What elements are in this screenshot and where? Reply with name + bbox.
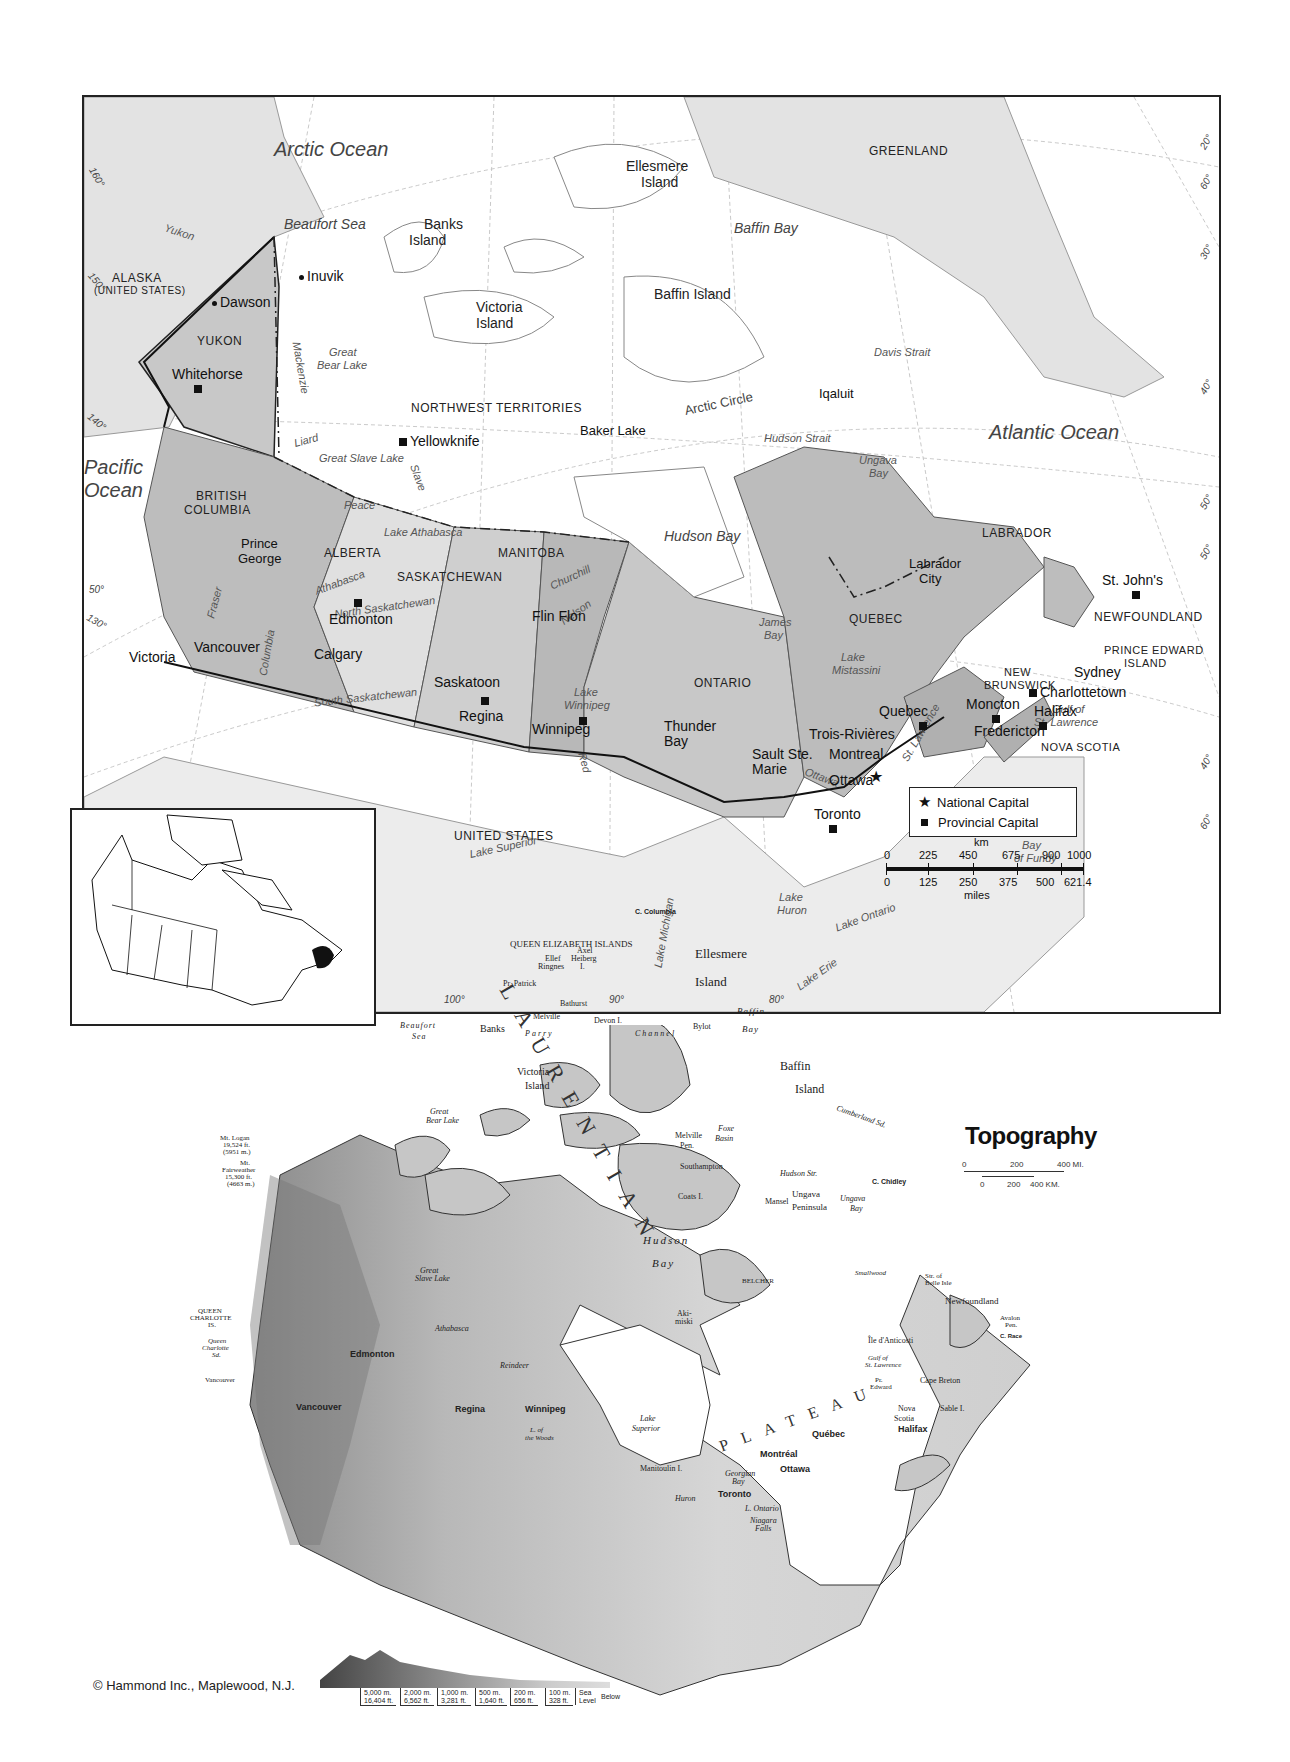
topo-label: Newfoundland (945, 1297, 999, 1306)
nova-scotia-label: NOVA SCOTIA (1041, 742, 1120, 754)
pei-label-1: PRINCE EDWARD (1104, 645, 1204, 657)
star-icon: ★ (918, 793, 931, 811)
topo-label: Island (695, 975, 727, 989)
topo-label: Falls (755, 1525, 771, 1533)
city-labrador-city-2: City (919, 572, 941, 586)
topo-label: Baffin (780, 1060, 810, 1073)
city-dot-icon (212, 301, 217, 306)
elevation-profile-graphic (320, 1650, 610, 1690)
city-yellowknife: Yellowknife (399, 434, 480, 449)
elevation-band-500: 500 m.1,640 ft. (475, 1688, 507, 1706)
topo-label: Channel (635, 1030, 676, 1038)
topo-city-label: Montréal (760, 1450, 798, 1459)
topo-label: Huron (675, 1495, 696, 1503)
topo-city-label: Québec (812, 1430, 845, 1439)
peace-river-label: Peace (344, 500, 375, 512)
topo-label: Melville (675, 1132, 702, 1140)
great-slave-lake-label: Great Slave Lake (319, 453, 404, 465)
lake-huron-label-2: Huron (777, 905, 807, 917)
city-prince-george-2: George (238, 552, 281, 566)
locator-inset-map (70, 808, 376, 1026)
topo-label: Bay (850, 1205, 862, 1213)
provincial-capital-icon (1132, 591, 1140, 599)
city-moncton: Moncton (966, 697, 1020, 712)
topo-label: Belle Isle (925, 1280, 952, 1287)
davis-strait-label: Davis Strait (874, 347, 930, 359)
topo-label: Bay (732, 1478, 744, 1486)
topo-label: Smallwood (855, 1270, 886, 1277)
city-baker-lake: Baker Lake (580, 424, 646, 438)
graticule-label: 90° (609, 995, 624, 1006)
topo-label: Sea (412, 1033, 427, 1041)
square-icon (921, 819, 928, 826)
graticule-label: 80° (769, 995, 784, 1006)
topo-label: Ungava (840, 1195, 865, 1203)
city-sydney: Sydney (1074, 665, 1121, 680)
great-bear-lake-label-1: Great (329, 347, 357, 359)
topo-label: Sable I. (940, 1405, 964, 1413)
city-edmonton: Edmonton (329, 612, 393, 627)
quebec-label: QUEBEC (849, 613, 903, 626)
city-victoria: Victoria (129, 650, 175, 665)
james-bay-label-1: James (759, 617, 791, 629)
bc-label-2: COLUMBIA (184, 504, 251, 517)
lake-mistassini-label-2: Mistassini (832, 665, 880, 677)
alaska-us-label: (UNITED STATES) (94, 286, 186, 297)
ungava-bay-label-2: Bay (869, 468, 888, 480)
topo-label: C. Columbia (635, 908, 676, 915)
city-thunder-bay-2: Bay (664, 734, 688, 749)
city-halifax: Halifax (1034, 704, 1077, 719)
topo-label: Bear Lake (426, 1117, 459, 1125)
bc-label-1: BRITISH (196, 490, 247, 503)
city-inuvik: Inuvik (299, 269, 344, 284)
topo-city-label: Halifax (898, 1425, 928, 1434)
topo-label: Bay (652, 1258, 675, 1270)
topo-label: Scotia (894, 1415, 914, 1423)
city-iqaluit: Iqaluit (819, 387, 854, 401)
topo-label: St. Lawrence (865, 1362, 901, 1369)
topo-label: Island (525, 1081, 549, 1092)
topo-label: Basin (715, 1135, 733, 1143)
ontario-label: ONTARIO (694, 677, 751, 690)
alaska-label: ALASKA (112, 272, 162, 285)
pacific-ocean-label-2: Ocean (84, 480, 143, 501)
topo-label: Ellesmere (695, 947, 747, 961)
provincial-capital-icon (481, 697, 489, 705)
hudson-strait-label: Hudson Strait (764, 433, 831, 445)
topo-label: Peninsula (792, 1203, 827, 1212)
elevation-band-below: Below (598, 1692, 623, 1702)
city-saskatoon: Saskatoon (434, 675, 500, 690)
elevation-legend: 5,000 m.16,404 ft. 2,000 m.6,562 ft. 1,0… (320, 1650, 610, 1720)
topo-label: Ungava (792, 1190, 820, 1199)
great-bear-lake-label-2: Bear Lake (317, 360, 367, 372)
elevation-band-200: 200 m.656 ft. (510, 1688, 538, 1706)
city-montreal: Montreal (829, 747, 883, 762)
legend-provincial-capital: Provincial Capital (918, 812, 1068, 832)
ellesmere-island-label-2: Island (641, 175, 678, 190)
newfoundland-label: NEWFOUNDLAND (1094, 611, 1203, 624)
new-brunswick-label-1: NEW (1004, 667, 1031, 679)
city-st-johns: St. John's (1102, 573, 1163, 588)
topo-label: Superior (632, 1425, 660, 1433)
provincial-capital-icon (829, 825, 837, 833)
provincial-capital-icon (992, 715, 1000, 723)
topo-label: Ringnes (538, 963, 564, 971)
manitoba-label: MANITOBA (498, 547, 564, 560)
topo-city-label: Edmonton (350, 1350, 395, 1359)
topo-label: Coats I. (678, 1193, 703, 1201)
atlantic-ocean-label: Atlantic Ocean (989, 422, 1119, 443)
topo-label: Cape Breton (920, 1377, 960, 1385)
topo-city-label: Vancouver (296, 1403, 342, 1412)
lake-mistassini-label-1: Lake (841, 652, 865, 664)
banks-island-label-1: Banks (424, 217, 463, 232)
provincial-capital-icon (354, 599, 362, 607)
topo-label: L. Ontario (745, 1505, 779, 1513)
topo-label: Devon I. (594, 1017, 622, 1025)
elevation-band-5000: 5,000 m.16,404 ft. (360, 1688, 396, 1706)
topo-label: Beaufort (400, 1022, 436, 1030)
elevation-band-sea-level: SeaLevel (575, 1688, 599, 1705)
provincial-capital-icon (579, 717, 587, 725)
james-bay-label-2: Bay (764, 630, 783, 642)
map-legend: ★National Capital Provincial Capital (909, 787, 1077, 837)
topo-label: Reindeer (500, 1362, 529, 1370)
